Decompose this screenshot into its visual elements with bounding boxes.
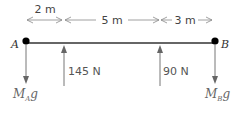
weight-arrow-b (212, 44, 218, 84)
force-arrow-145n (61, 45, 67, 86)
force-label-90n: 90 N (163, 65, 189, 78)
weight-label-a: MAg (12, 87, 38, 103)
force-label-145n: 145 N (68, 65, 101, 78)
weight-label-b: MBg (204, 87, 230, 103)
dimension-label-5m: 5 m (101, 14, 122, 27)
point-b-label: B (220, 38, 229, 51)
dimension-label-2m: 2 m (34, 3, 55, 16)
point-b-dot (211, 37, 218, 44)
point-a-dot (22, 37, 29, 44)
beam-diagram: 2 m 5 m 3 m A B 145 N 90 N MAg MBg (0, 0, 236, 117)
weight-arrow-a (23, 44, 29, 84)
point-a-label: A (10, 38, 19, 51)
dimension-label-3m: 3 m (174, 14, 195, 27)
